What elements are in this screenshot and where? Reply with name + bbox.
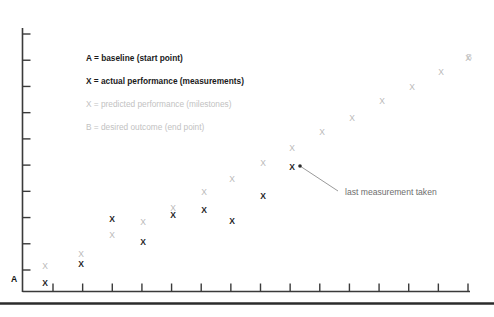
marker-predicted: X xyxy=(409,83,415,92)
marker-predicted: X xyxy=(349,114,355,123)
marker-predicted: X xyxy=(379,97,385,106)
marker-predicted: X xyxy=(319,128,325,137)
x-axis-ticks xyxy=(53,284,468,292)
marker-predicted: X xyxy=(109,231,115,240)
legend-item-baseline: A = baseline (start point) xyxy=(86,54,346,62)
chart-legend: A = baseline (start point) X = actual pe… xyxy=(86,54,346,146)
marker-predicted: X xyxy=(140,218,146,227)
endpoint-label-b: B xyxy=(466,53,472,62)
marker-actual: X xyxy=(109,215,115,224)
legend-item-predicted: X = predicted performance (milestones) xyxy=(86,100,346,108)
marker-predicted: X xyxy=(289,144,295,153)
marker-predicted: X xyxy=(260,159,266,168)
baseline-label-a: A xyxy=(11,275,17,284)
y-axis-ticks xyxy=(23,34,31,270)
marker-predicted: X xyxy=(42,262,48,271)
marker-actual: X xyxy=(229,217,235,226)
marker-predicted: X xyxy=(438,68,444,77)
marker-actual: X xyxy=(78,260,84,269)
marker-predicted: X xyxy=(78,250,84,259)
chart-axes xyxy=(0,0,494,317)
marker-predicted: X xyxy=(229,175,235,184)
marker-actual: X xyxy=(260,192,266,201)
marker-predicted: X xyxy=(170,204,176,213)
chart-canvas: A = baseline (start point) X = actual pe… xyxy=(0,0,494,317)
marker-actual: X xyxy=(42,279,48,288)
annotation-arrow xyxy=(298,164,338,191)
annotation-label: last measurement taken xyxy=(345,188,437,197)
marker-actual: X xyxy=(140,238,146,247)
marker-actual: X xyxy=(289,163,295,172)
marker-predicted: X xyxy=(201,188,207,197)
legend-item-actual: X = actual performance (measurements) xyxy=(86,77,346,85)
legend-item-outcome: B = desired outcome (end point) xyxy=(86,123,346,131)
marker-actual: X xyxy=(201,206,207,215)
